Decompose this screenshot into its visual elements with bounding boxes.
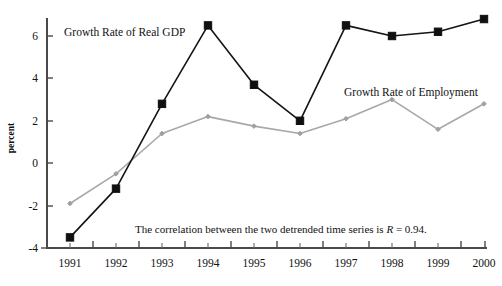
x-tick-label-2000: 2000 bbox=[473, 257, 496, 269]
annotation-text-before: The correlation between the two detrende… bbox=[135, 223, 386, 235]
series-employment-group bbox=[68, 97, 487, 205]
series-gdp-group bbox=[66, 15, 487, 241]
gdp-point-2000 bbox=[480, 15, 487, 22]
y-tick-label-2: 2 bbox=[32, 115, 38, 127]
employment-point-1996 bbox=[298, 131, 303, 136]
annotation-text-after: = 0.94. bbox=[393, 223, 427, 235]
x-tick-label-1992: 1992 bbox=[105, 257, 128, 269]
gdp-point-1997 bbox=[342, 22, 349, 29]
correlation-annotation: The correlation between the two detrende… bbox=[135, 223, 427, 235]
y-tick-label-0: 0 bbox=[32, 157, 38, 169]
gdp-point-1991 bbox=[66, 234, 73, 241]
gdp-point-1999 bbox=[434, 28, 441, 35]
employment-line bbox=[70, 100, 484, 204]
series-label-gdp: Growth Rate of Real GDP bbox=[64, 26, 185, 38]
gdp-point-1996 bbox=[296, 117, 303, 124]
chart-figure: 6 4 2 0 -2 -4 percent bbox=[0, 0, 502, 286]
x-tick-label-1997: 1997 bbox=[335, 257, 358, 269]
x-tick-label-1991: 1991 bbox=[59, 257, 82, 269]
series-label-employment: Growth Rate of Employment bbox=[344, 86, 479, 99]
x-tick-label-1994: 1994 bbox=[197, 257, 220, 269]
gdp-point-1998 bbox=[388, 32, 395, 39]
page-caption-strip bbox=[0, 276, 502, 286]
x-tick-label-1998: 1998 bbox=[381, 257, 404, 269]
x-axis-tick-labels: 1991 1992 1993 1994 1995 1996 1997 1998 … bbox=[59, 257, 496, 269]
y-tick-label-minus4: -4 bbox=[28, 242, 38, 254]
gdp-point-1994 bbox=[204, 22, 211, 29]
y-axis-title: percent bbox=[6, 122, 16, 153]
y-tick-label-6: 6 bbox=[32, 30, 38, 42]
x-tick-label-1996: 1996 bbox=[289, 257, 312, 269]
gdp-point-1995 bbox=[250, 81, 257, 88]
employment-point-1995 bbox=[252, 124, 257, 129]
y-tick-label-4: 4 bbox=[32, 72, 38, 84]
line-chart-canvas: 6 4 2 0 -2 -4 percent bbox=[0, 0, 502, 286]
x-tick-label-1993: 1993 bbox=[151, 257, 174, 269]
employment-point-1997 bbox=[344, 116, 349, 121]
gdp-line bbox=[70, 19, 484, 237]
caption-ghost-text bbox=[120, 276, 126, 286]
x-axis-ticks bbox=[47, 241, 485, 248]
gdp-point-1992 bbox=[112, 185, 119, 192]
y-tick-label-minus2: -2 bbox=[28, 200, 38, 212]
gdp-point-1993 bbox=[158, 100, 165, 107]
employment-markers bbox=[68, 97, 487, 205]
axes-group bbox=[46, 18, 487, 248]
y-axis-tick-labels: 6 4 2 0 -2 -4 bbox=[28, 30, 38, 254]
x-tick-label-1999: 1999 bbox=[427, 257, 450, 269]
x-tick-label-1995: 1995 bbox=[243, 257, 266, 269]
gdp-markers bbox=[66, 15, 487, 241]
employment-point-1994 bbox=[206, 114, 211, 119]
